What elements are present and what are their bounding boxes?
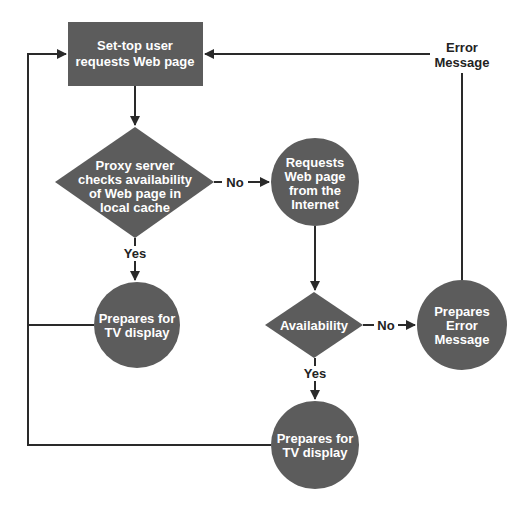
node-cache-check-line-4: local cache — [100, 200, 170, 215]
node-prepare-tv-2-line-1: Prepares for — [277, 431, 354, 446]
node-prepare-error-line-2: Error — [446, 318, 478, 333]
node-start-line-1: Set-top user — [97, 38, 173, 53]
node-request-line-4: Internet — [291, 197, 339, 212]
node-availability: Availability — [265, 292, 363, 358]
node-cache-check-line-2: checks availability — [78, 172, 193, 187]
node-request-line-1: Requests — [286, 155, 345, 170]
node-request-line-3: from the — [289, 183, 341, 198]
node-cache-check-line-3: of Web page in — [89, 186, 181, 201]
label-error-message-line-1: Error — [446, 40, 478, 55]
node-start-line-2: requests Web page — [76, 54, 195, 69]
node-request-line-2: Web page — [284, 169, 345, 184]
node-prepare-error: Prepares Error Message — [417, 280, 507, 370]
node-prepare-tv-1: Prepares for TV display — [94, 282, 180, 368]
node-start: Set-top user requests Web page — [68, 22, 203, 86]
node-request-internet: Requests Web page from the Internet — [271, 138, 359, 226]
node-prepare-error-line-3: Message — [435, 332, 490, 347]
node-prepare-tv-1-line-1: Prepares for — [99, 311, 176, 326]
node-prepare-tv-1-line-2: TV display — [104, 325, 170, 340]
node-prepare-tv-2: Prepares for TV display — [271, 401, 359, 489]
node-prepare-error-line-1: Prepares — [434, 304, 490, 319]
node-cache-check: Proxy server checks availability of Web … — [55, 127, 214, 238]
connectors — [28, 54, 462, 445]
label-cache-no: No — [226, 175, 243, 190]
edge-tv2-loop-to-start — [28, 54, 271, 445]
label-avail-yes: Yes — [304, 366, 326, 381]
label-error-message-line-2: Message — [435, 55, 490, 70]
node-prepare-tv-2-line-2: TV display — [282, 445, 348, 460]
label-cache-yes: Yes — [124, 246, 146, 261]
node-availability-label: Availability — [280, 318, 349, 333]
label-avail-no: No — [377, 318, 394, 333]
node-cache-check-line-1: Proxy server — [96, 158, 175, 173]
flowchart: Set-top user requests Web page Proxy ser… — [0, 0, 527, 505]
